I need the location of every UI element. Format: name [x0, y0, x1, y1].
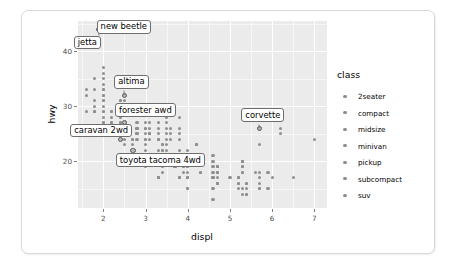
data-point — [279, 127, 282, 130]
legend-key-icon — [337, 88, 353, 104]
x-axis-tick-label: 6 — [270, 214, 275, 223]
legend-key-icon — [337, 105, 353, 121]
data-point — [93, 88, 96, 91]
data-point — [102, 88, 105, 91]
data-point — [157, 132, 160, 135]
data-point — [195, 143, 198, 146]
annotation-label: forester awd — [115, 103, 176, 117]
x-axis-tick — [314, 209, 315, 212]
data-point — [178, 127, 181, 130]
data-point — [258, 176, 261, 179]
grid-line-major-vertical — [103, 21, 104, 208]
data-point — [313, 138, 316, 141]
grid-line-minor-vertical — [209, 21, 210, 208]
data-point — [123, 99, 126, 102]
grid-line-minor-vertical — [82, 21, 83, 208]
legend-title: class — [337, 69, 360, 80]
data-point — [135, 127, 138, 130]
y-axis-tick — [74, 161, 77, 162]
data-point — [237, 187, 240, 190]
x-axis-tick — [230, 209, 231, 212]
x-axis-title: displ — [191, 231, 213, 242]
data-point — [135, 138, 138, 141]
grid-line-major-horizontal — [78, 51, 327, 52]
data-point — [123, 138, 126, 141]
x-axis-tick — [103, 209, 104, 212]
data-point — [216, 171, 219, 174]
data-point — [131, 143, 134, 146]
data-point — [144, 132, 147, 135]
data-point — [237, 182, 240, 185]
grid-line-minor-horizontal — [78, 189, 327, 190]
data-point — [93, 110, 96, 113]
data-point — [102, 99, 105, 102]
data-point — [93, 105, 96, 108]
data-point — [85, 110, 88, 113]
data-point — [271, 176, 274, 179]
highlighted-data-point — [118, 137, 123, 142]
data-point — [178, 132, 181, 135]
data-point — [237, 176, 240, 179]
data-point — [254, 171, 257, 174]
data-point — [241, 160, 244, 163]
y-axis-tick — [74, 51, 77, 52]
legend-item-label: midsize — [358, 125, 386, 134]
data-point — [102, 83, 105, 86]
data-point — [161, 149, 164, 152]
data-point — [102, 77, 105, 80]
grid-line-major-vertical — [314, 21, 315, 208]
data-point — [199, 171, 202, 174]
x-axis-tick — [272, 209, 273, 212]
legend-item-label: 2seater — [358, 92, 385, 101]
legend-key-icon — [337, 138, 353, 154]
data-point — [258, 143, 261, 146]
data-point — [85, 88, 88, 91]
data-point — [241, 165, 244, 168]
data-point — [169, 138, 172, 141]
data-point — [169, 127, 172, 130]
legend-key-icon — [337, 171, 353, 187]
data-point — [211, 187, 214, 190]
data-point — [258, 171, 261, 174]
data-point — [241, 171, 244, 174]
data-point — [123, 143, 126, 146]
data-point — [245, 187, 248, 190]
y-axis-title: hwy — [46, 105, 57, 124]
annotation-label: corvette — [241, 108, 284, 122]
x-axis-tick-label: 3 — [143, 214, 148, 223]
data-point — [186, 149, 189, 152]
legend-item-label: subcompact — [358, 174, 402, 183]
data-point — [266, 187, 269, 190]
data-point — [102, 110, 105, 113]
data-point — [292, 176, 295, 179]
data-point — [110, 110, 113, 113]
y-axis-tick-label: 30 — [56, 102, 72, 111]
annotation-label: altima — [114, 75, 148, 89]
x-axis-tick-label: 2 — [101, 214, 106, 223]
data-point — [102, 116, 105, 119]
data-point — [165, 138, 168, 141]
data-point — [178, 176, 181, 179]
data-point — [144, 143, 147, 146]
data-point — [157, 138, 160, 141]
data-point — [266, 171, 269, 174]
legend-item-label: compact — [358, 108, 389, 117]
x-axis-tick-label: 7 — [312, 214, 317, 223]
legend-key-icon — [337, 154, 353, 170]
data-point — [135, 132, 138, 135]
data-point — [148, 132, 151, 135]
data-point — [178, 149, 181, 152]
data-point — [182, 171, 185, 174]
data-point — [148, 127, 151, 130]
legend-item-label: suv — [358, 191, 371, 200]
data-point — [144, 127, 147, 130]
data-point — [157, 121, 160, 124]
data-point — [241, 187, 244, 190]
data-point — [85, 94, 88, 97]
annotation-label: toyota tacoma 4wd — [116, 153, 205, 167]
grid-line-major-vertical — [230, 21, 231, 208]
grid-line-minor-vertical — [293, 21, 294, 208]
data-point — [110, 116, 113, 119]
data-point — [245, 182, 248, 185]
scatter-plot-figure: 234567203040 new beetlejettaaltimaforest… — [0, 0, 457, 267]
